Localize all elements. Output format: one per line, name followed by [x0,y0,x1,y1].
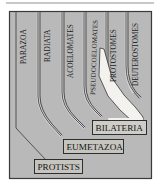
tip-label-acoelomates: ACOELOMATES [67,24,75,78]
bilateria-label: BILATERIA [96,123,144,133]
tree-diagram-canvas: PARAZOA RADIATA ACOELOMATES PSEUDOCOELOM… [0,0,160,189]
phylogenetic-tree-figure: PARAZOA RADIATA ACOELOMATES PSEUDOCOELOM… [0,0,160,189]
node-bilateria: BILATERIA [93,121,147,135]
protists-label: PROTISTS [38,162,80,172]
tip-label-deuterostomes: DEUTEROSTOMES [132,23,140,86]
tip-label-parazoa: PARAZOA [19,29,28,64]
tip-label-protostomes: PROTOSTOMES [110,29,118,82]
top-rule [6,2,154,4]
node-protists: PROTISTS [35,160,83,174]
tip-label-radiata: RADIATA [43,29,52,62]
eumetazoa-label: EUMETAZOA [67,142,124,152]
node-eumetazoa: EUMETAZOA [64,140,124,154]
